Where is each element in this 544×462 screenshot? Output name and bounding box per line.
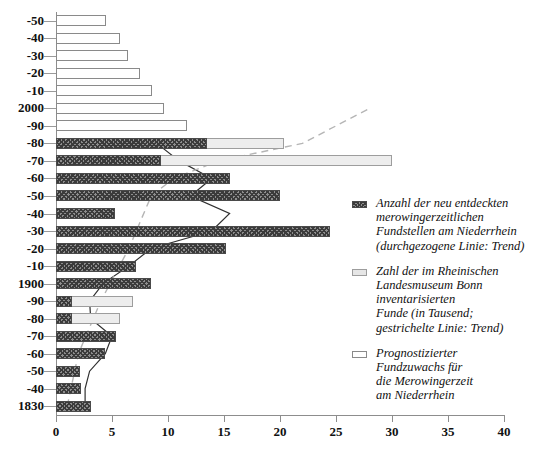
legend-label-line: die Merowingerzeit [376,374,544,388]
bar-dark [56,208,115,219]
y-axis-tick-label: -60 [0,346,44,362]
y-axis-tick [44,301,56,302]
bar-dark [56,348,105,359]
y-axis-tick [44,143,56,144]
y-axis-tick-label: -40 [0,381,44,397]
y-axis-tick [44,284,56,285]
x-axis-tick-label: 0 [53,424,60,440]
bar-dark [56,313,72,324]
x-axis-tick-label: 10 [162,424,175,440]
y-axis-tick-label: -30 [0,223,44,239]
bar-prog [56,33,120,44]
legend-swatch-icon [352,201,367,208]
x-axis-tick [448,415,449,422]
chart-legend: Anzahl der neu entdecktenmerowingerzeitl… [352,196,544,414]
legend-label-line: Fundstellen am Niederrhein [376,224,544,238]
x-axis-tick [504,415,505,422]
x-axis-tick [56,415,57,422]
chart-container: -50-40-30-20-102000-90-80-70-60-50-40-30… [0,0,544,462]
legend-label-line: Landesmuseum Bonn [376,278,544,292]
y-axis-tick-label: -50 [0,188,44,204]
legend-label-line: Funde (in Tausend; [376,306,544,320]
y-axis-tick-label: -30 [0,48,44,64]
y-axis-tick-label: -20 [0,65,44,81]
y-axis-tick [44,319,56,320]
bar-prog [56,50,128,61]
y-axis-tick [44,354,56,355]
x-axis-tick [224,415,225,422]
y-axis-tick-label: -60 [0,170,44,186]
y-axis-tick [44,126,56,127]
bar-prog [56,103,164,114]
y-axis-tick [44,73,56,74]
x-axis-tick-label: 30 [386,424,399,440]
y-axis-tick-label: -50 [0,363,44,379]
legend-label-line: merowingerzeitlichen [376,210,544,224]
bar-dark [56,278,151,289]
y-axis-tick [44,214,56,215]
y-axis-tick [44,266,56,267]
legend-label-line: Anzahl der neu entdeckten [376,196,544,210]
legend-label-line: Zahl der im Rheinischen [376,264,544,278]
y-axis-tick-label: -10 [0,83,44,99]
bar-dark [56,331,116,342]
legend-item-grey: Zahl der im RheinischenLandesmuseum Bonn… [352,264,544,335]
bar-dark [56,401,91,412]
y-axis-tick [44,21,56,22]
bar-prog [56,85,152,96]
y-axis-tick [44,108,56,109]
x-axis-tick-label: 15 [218,424,231,440]
x-axis-tick [392,415,393,422]
x-axis-tick-label: 20 [274,424,287,440]
y-axis-tick [44,231,56,232]
y-axis-tick [44,406,56,407]
y-axis-tick-label: 1830 [0,398,44,414]
legend-item-prog: PrognostizierterFundzuwachs fürdie Merow… [352,346,544,403]
y-axis-tick-label: 1900 [0,276,44,292]
x-axis-tick-label: 5 [109,424,116,440]
y-axis-tick [44,249,56,250]
y-axis-tick-label: -10 [0,258,44,274]
legend-label-line: gestrichelte Linie: Trend) [376,321,544,335]
y-axis-tick-label: -70 [0,328,44,344]
y-axis-tick [44,196,56,197]
x-axis-tick [112,415,113,422]
y-axis-tick [44,91,56,92]
legend-item-label: Anzahl der neu entdecktenmerowingerzeitl… [376,196,544,253]
legend-swatch-icon [352,269,367,276]
y-axis-tick [44,371,56,372]
y-axis-tick [44,389,56,390]
y-axis-tick-label: -80 [0,311,44,327]
bar-dark [56,261,136,272]
bar-dark [56,155,161,166]
bar-dark [56,366,80,377]
legend-label-line: inventarisierten [376,292,544,306]
y-axis-tick-label: -40 [0,206,44,222]
y-axis-tick-label: 2000 [0,100,44,116]
legend-item-dark: Anzahl der neu entdecktenmerowingerzeitl… [352,196,544,253]
bar-dark [56,243,226,254]
y-axis-tick-label: -20 [0,241,44,257]
y-axis-tick [44,178,56,179]
legend-item-label: Zahl der im RheinischenLandesmuseum Bonn… [376,264,544,335]
x-axis-tick [168,415,169,422]
y-axis-tick-label: -50 [0,13,44,29]
y-axis-tick [44,336,56,337]
y-axis-tick-label: -90 [0,118,44,134]
legend-label-line: am Niederrhein [376,388,544,402]
bar-dark [56,226,330,237]
y-axis-tick-label: -40 [0,30,44,46]
y-axis-tick [44,56,56,57]
legend-item-label: PrognostizierterFundzuwachs fürdie Merow… [376,346,544,403]
x-axis-tick [336,415,337,422]
y-axis-tick-label: -70 [0,153,44,169]
bar-dark [56,173,230,184]
legend-label-line: (durchgezogene Linie: Trend) [376,239,544,253]
bar-dark [56,190,280,201]
bar-prog [56,120,187,131]
x-axis-tick-label: 35 [442,424,455,440]
bar-dark [56,383,81,394]
y-axis-tick-label: -80 [0,135,44,151]
y-axis-tick [44,38,56,39]
y-axis-tick [44,161,56,162]
